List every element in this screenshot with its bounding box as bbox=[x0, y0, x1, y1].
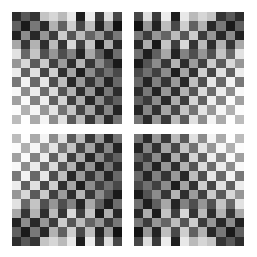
heatmap-cell bbox=[30, 134, 39, 143]
heatmap-cell bbox=[162, 96, 171, 105]
heatmap-cell bbox=[226, 162, 235, 171]
heatmap-cell bbox=[40, 96, 49, 105]
heatmap-cell bbox=[162, 143, 171, 152]
heatmap-cell bbox=[21, 237, 30, 246]
heatmap-cell bbox=[30, 77, 39, 86]
heatmap-cell bbox=[217, 162, 226, 171]
heatmap-cell bbox=[40, 218, 49, 227]
heatmap-cell bbox=[95, 105, 104, 114]
heatmap-cell bbox=[180, 181, 189, 190]
heatmap-cell bbox=[21, 227, 30, 236]
heatmap-cell bbox=[12, 115, 21, 124]
heatmap-cell bbox=[67, 227, 76, 236]
heatmap-cell bbox=[226, 153, 235, 162]
heatmap-cell bbox=[30, 49, 39, 58]
heatmap-cell bbox=[12, 134, 21, 143]
heatmap-cell bbox=[198, 115, 207, 124]
heatmap-cell bbox=[49, 31, 58, 40]
heatmap-cell bbox=[85, 134, 94, 143]
heatmap-cell bbox=[143, 49, 152, 58]
heatmap-cell bbox=[152, 40, 161, 49]
heatmap-cell bbox=[30, 31, 39, 40]
heatmap-cell bbox=[58, 162, 67, 171]
heatmap-cell bbox=[104, 77, 113, 86]
heatmap-cell bbox=[12, 68, 21, 77]
heatmap-cell bbox=[235, 199, 244, 208]
heatmap-cell bbox=[113, 96, 122, 105]
heatmap-cell bbox=[76, 181, 85, 190]
heatmap-cell bbox=[226, 68, 235, 77]
heatmap-cell bbox=[162, 162, 171, 171]
heatmap-cell bbox=[217, 143, 226, 152]
heatmap-cell bbox=[49, 237, 58, 246]
heatmap-cell bbox=[162, 209, 171, 218]
heatmap-cell bbox=[207, 87, 216, 96]
heatmap-cell bbox=[171, 181, 180, 190]
heatmap-cell bbox=[152, 181, 161, 190]
heatmap-cell bbox=[143, 153, 152, 162]
heatmap-cell bbox=[162, 134, 171, 143]
heatmap-cell bbox=[198, 77, 207, 86]
heatmap-cell bbox=[85, 199, 94, 208]
heatmap-cell bbox=[180, 87, 189, 96]
heatmap-cell bbox=[76, 199, 85, 208]
heatmap-cell bbox=[58, 171, 67, 180]
heatmap-cell bbox=[95, 237, 104, 246]
heatmap-cell bbox=[58, 21, 67, 30]
heatmap-cell bbox=[12, 199, 21, 208]
heatmap-cell bbox=[162, 105, 171, 114]
heatmap-cell bbox=[85, 171, 94, 180]
heatmap-cell bbox=[95, 40, 104, 49]
heatmap-cell bbox=[180, 237, 189, 246]
heatmap-cell bbox=[30, 190, 39, 199]
heatmap-cell bbox=[58, 40, 67, 49]
heatmap-cell bbox=[113, 105, 122, 114]
heatmap-cell bbox=[207, 162, 216, 171]
heatmap-cell bbox=[12, 209, 21, 218]
heatmap-cell bbox=[152, 87, 161, 96]
heatmap-cell bbox=[30, 181, 39, 190]
heatmap-cell bbox=[171, 199, 180, 208]
heatmap-cell bbox=[95, 227, 104, 236]
heatmap-cell bbox=[180, 218, 189, 227]
heatmap-cell bbox=[76, 171, 85, 180]
heatmap-cell bbox=[134, 87, 143, 96]
heatmap-cell bbox=[226, 227, 235, 236]
heatmap-cell bbox=[76, 21, 85, 30]
heatmap-cell bbox=[217, 181, 226, 190]
heatmap-cell bbox=[226, 181, 235, 190]
heatmap-cell bbox=[67, 31, 76, 40]
heatmap-cell bbox=[235, 31, 244, 40]
heatmap-cell bbox=[217, 190, 226, 199]
heatmap-cell bbox=[189, 153, 198, 162]
heatmap-cell bbox=[134, 31, 143, 40]
heatmap-cell bbox=[76, 59, 85, 68]
heatmap-cell bbox=[95, 199, 104, 208]
heatmap-cell bbox=[207, 134, 216, 143]
heatmap-cell bbox=[152, 237, 161, 246]
heatmap-cell bbox=[180, 115, 189, 124]
heatmap-cell bbox=[134, 68, 143, 77]
heatmap-cell bbox=[49, 162, 58, 171]
heatmap-cell bbox=[95, 12, 104, 21]
heatmap-cell bbox=[226, 209, 235, 218]
heatmap-cell bbox=[152, 171, 161, 180]
heatmap-cell bbox=[30, 218, 39, 227]
heatmap-cell bbox=[217, 209, 226, 218]
heatmap-cell bbox=[143, 115, 152, 124]
heatmap-cell bbox=[21, 59, 30, 68]
heatmap-cell bbox=[207, 171, 216, 180]
heatmap-cell bbox=[143, 218, 152, 227]
heatmap-cell bbox=[143, 40, 152, 49]
heatmap-cell bbox=[189, 115, 198, 124]
heatmap-cell bbox=[49, 68, 58, 77]
heatmap-cell bbox=[217, 31, 226, 40]
heatmap-cell bbox=[217, 199, 226, 208]
heatmap-cell bbox=[226, 87, 235, 96]
heatmap-cell bbox=[67, 143, 76, 152]
heatmap-cell bbox=[104, 143, 113, 152]
heatmap-cell bbox=[85, 96, 94, 105]
heatmap-cell bbox=[40, 49, 49, 58]
heatmap-cell bbox=[85, 237, 94, 246]
heatmap-cell bbox=[67, 68, 76, 77]
